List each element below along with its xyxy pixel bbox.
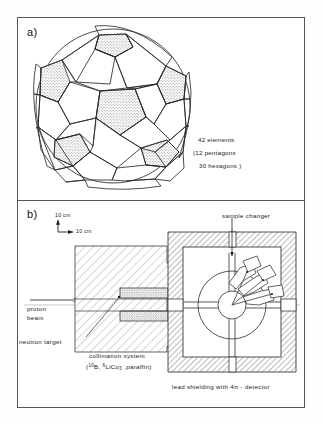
scale-bar-horizontal-label: 10 cm (76, 228, 92, 234)
panel-b-label: b) (27, 208, 38, 220)
face-hex-right-mid (154, 99, 186, 140)
collimation-composition-label: (10B, 6LiCo3 ,paraffin) (86, 363, 152, 371)
limb-arc-bottom (88, 186, 161, 189)
panel-a-label: a) (27, 26, 38, 38)
scale-bar-vertical-label: 10 cm (55, 212, 71, 218)
shaded-pentagon-top (95, 34, 133, 57)
limb-top-right (126, 34, 172, 66)
collimator-channel-upper (120, 288, 168, 298)
boron-symbol: B, (94, 363, 102, 370)
sphere-group (34, 26, 191, 190)
panel-a-note-hexagons: 30 hexagons ) (199, 162, 241, 169)
sample-changer-channel (229, 232, 236, 247)
face-hex-mid-upper-right (127, 84, 157, 89)
shaded-pentagon-lower-right (141, 140, 179, 167)
collimator-channel-lower (120, 311, 168, 321)
proton-beam-label-line2: beam (27, 314, 44, 321)
face-hex-left-mid (38, 95, 70, 140)
limb-right-mid (184, 99, 190, 126)
face-hex-upper-mid (76, 49, 127, 91)
sample-changer-label: sample changer (222, 212, 270, 219)
lithium-carbonate-symbol: LiCo (105, 363, 119, 370)
panel-a-note-elements: 42 elements (198, 136, 234, 143)
bottom-access-channel (229, 357, 236, 372)
face-bottom-strip-left (55, 166, 85, 182)
limb-bottom-left (66, 180, 88, 187)
neutron-target-point (118, 296, 120, 298)
collimation-system-label: collimation system (89, 352, 145, 359)
lead-shielding-label: lead shielding with 4π - detector (172, 383, 270, 390)
neutron-target-label: neutron target (19, 338, 62, 345)
panel-a-drawing (0, 0, 323, 424)
figure-root: a) b) 42 elements (12 pentagons 30 hexag… (0, 0, 323, 424)
scale-bar (58, 220, 73, 232)
panel-b-drawing (24, 218, 300, 372)
proton-beam-label-line1: proton (27, 305, 46, 312)
shaded-pentagon-center (96, 89, 146, 135)
formula-close: ,paraffin) (122, 363, 151, 370)
limb-bottom-right (126, 179, 161, 186)
panel-a-note-pentagons: (12 pentagons (193, 149, 236, 156)
